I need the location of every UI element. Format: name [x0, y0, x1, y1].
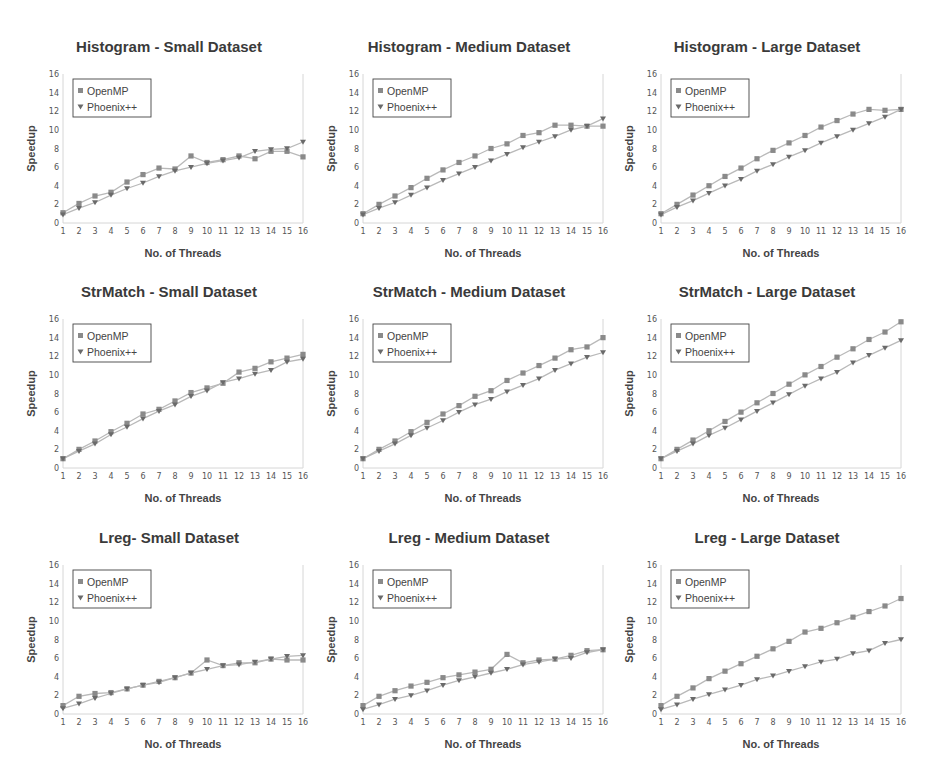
x-tick-label: 12	[234, 227, 244, 236]
data-point-square	[488, 146, 493, 151]
y-tick-label: 6	[652, 408, 657, 417]
x-tick-label: 9	[786, 227, 791, 236]
chart-svg: Histogram - Medium Dataset02468101214161…	[300, 30, 610, 275]
legend-label: OpenMP	[387, 330, 428, 342]
legend-label: OpenMP	[387, 85, 428, 97]
data-point-square	[584, 344, 589, 349]
x-tick-label: 12	[534, 718, 544, 727]
series-phoenixpp	[658, 637, 904, 712]
x-tick-label: 8	[172, 472, 177, 481]
y-tick-label: 4	[652, 673, 657, 682]
series-phoenixpp	[60, 357, 306, 462]
data-point-square	[786, 140, 791, 145]
x-tick-label: 5	[424, 227, 429, 236]
x-tick-label: 10	[502, 718, 512, 727]
y-tick-label: 8	[354, 390, 359, 399]
data-point-square	[504, 141, 509, 146]
legend-label: OpenMP	[87, 330, 128, 342]
y-tick-label: 8	[54, 636, 59, 645]
x-tick-label: 5	[424, 718, 429, 727]
chart-title: StrMatch - Medium Dataset	[373, 283, 566, 300]
data-point-square	[504, 378, 509, 383]
data-point-triangle	[802, 384, 808, 389]
data-point-square	[674, 694, 679, 699]
x-tick-label: 6	[738, 227, 743, 236]
y-tick-label: 16	[647, 561, 657, 570]
y-tick-label: 4	[354, 427, 359, 436]
x-tick-label: 12	[234, 718, 244, 727]
legend-square-icon	[676, 579, 681, 584]
y-tick-label: 16	[647, 315, 657, 324]
data-point-square	[472, 153, 477, 158]
y-tick-label: 2	[354, 445, 359, 454]
x-tick-label: 3	[690, 472, 695, 481]
x-tick-label: 13	[250, 227, 260, 236]
y-tick-label: 14	[647, 580, 657, 589]
data-point-square	[552, 356, 557, 361]
series-openmp	[658, 596, 903, 708]
x-tick-label: 14	[266, 227, 276, 236]
y-tick-label: 10	[647, 126, 657, 135]
chart-svg: Histogram - Large Dataset024681012141612…	[598, 30, 908, 275]
y-tick-label: 4	[652, 182, 657, 191]
data-point-triangle	[108, 432, 114, 437]
y-tick-label: 0	[652, 219, 657, 228]
x-tick-label: 7	[754, 718, 759, 727]
legend-square-icon	[378, 88, 383, 93]
y-tick-label: 12	[349, 352, 359, 361]
x-tick-label: 8	[172, 227, 177, 236]
x-tick-label: 1	[658, 472, 663, 481]
x-tick-label: 8	[770, 227, 775, 236]
series-openmp	[360, 123, 605, 217]
x-tick-label: 4	[408, 718, 413, 727]
data-point-square	[754, 400, 759, 405]
x-tick-label: 2	[674, 472, 679, 481]
y-axis-label: Speedup	[325, 370, 337, 417]
x-tick-label: 3	[690, 718, 695, 727]
y-tick-label: 6	[54, 163, 59, 172]
y-tick-label: 2	[652, 445, 657, 454]
chart-title: StrMatch - Small Dataset	[81, 283, 257, 300]
y-tick-label: 12	[49, 107, 59, 116]
data-point-square	[834, 620, 839, 625]
x-tick-label: 15	[880, 227, 890, 236]
data-point-square	[834, 118, 839, 123]
x-tick-label: 2	[376, 227, 381, 236]
y-tick-label: 2	[652, 691, 657, 700]
x-axis-label: No. of Threads	[742, 492, 819, 504]
x-tick-label: 8	[472, 718, 477, 727]
x-tick-label: 2	[376, 718, 381, 727]
x-axis-label: No. of Threads	[144, 492, 221, 504]
data-point-triangle	[722, 184, 728, 189]
x-tick-label: 10	[202, 718, 212, 727]
chart-svg: Histogram - Small Dataset024681012141612…	[0, 30, 310, 275]
legend: OpenMPPhoenix++	[73, 324, 151, 362]
chart-svg: StrMatch - Large Dataset0246810121416123…	[598, 275, 908, 520]
chart-panel-histogram-small: Histogram - Small Dataset024681012141612…	[0, 30, 310, 275]
x-tick-label: 16	[896, 472, 906, 481]
y-tick-label: 2	[354, 200, 359, 209]
y-tick-label: 16	[349, 561, 359, 570]
y-tick-label: 2	[54, 445, 59, 454]
x-tick-label: 4	[108, 472, 113, 481]
x-axis-label: No. of Threads	[444, 738, 521, 750]
x-tick-label: 15	[282, 718, 292, 727]
y-tick-label: 14	[349, 89, 359, 98]
y-tick-label: 6	[354, 654, 359, 663]
y-tick-label: 2	[652, 200, 657, 209]
legend-label: Phoenix++	[87, 346, 137, 358]
y-tick-label: 4	[54, 427, 59, 436]
data-point-square	[536, 130, 541, 135]
x-tick-label: 6	[738, 718, 743, 727]
data-point-square	[568, 347, 573, 352]
x-tick-label: 14	[566, 227, 576, 236]
chart-title: Lreg - Large Dataset	[694, 529, 839, 546]
x-tick-label: 14	[266, 472, 276, 481]
data-point-square	[818, 626, 823, 631]
x-tick-label: 8	[472, 227, 477, 236]
x-tick-label: 5	[722, 718, 727, 727]
data-point-square	[424, 176, 429, 181]
x-tick-label: 6	[440, 718, 445, 727]
data-point-square	[770, 148, 775, 153]
chart-title: Lreg- Small Dataset	[99, 529, 239, 546]
